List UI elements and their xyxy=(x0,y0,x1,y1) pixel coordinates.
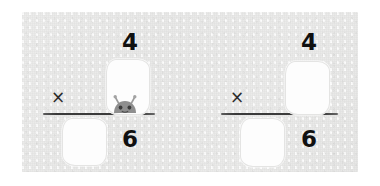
problem-left: × 4 6 xyxy=(22,12,190,172)
denominator-digit: 6 xyxy=(301,128,317,151)
multiplication-sign: × xyxy=(51,89,65,106)
blank-top-right[interactable] xyxy=(285,61,330,115)
blank-bottom-left[interactable] xyxy=(240,118,285,167)
numerator-digit: 4 xyxy=(301,31,317,54)
worksheet-stage: × 4 6 xyxy=(0,0,380,186)
numerator-digit: 4 xyxy=(122,31,138,54)
gray-creature-icon xyxy=(110,93,140,113)
problem-right: × 4 6 xyxy=(190,12,358,172)
multiplication-sign: × xyxy=(230,89,244,106)
denominator-digit: 6 xyxy=(122,128,138,151)
blank-bottom-left[interactable] xyxy=(62,118,107,166)
